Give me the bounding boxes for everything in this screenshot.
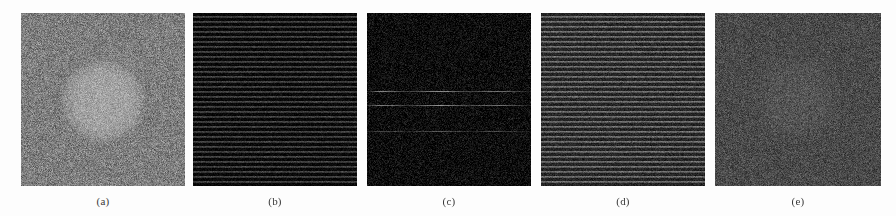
figure-panel-d: (d) <box>541 13 705 207</box>
panel-image-e <box>715 13 881 186</box>
panel-image-c <box>367 13 531 186</box>
panel-caption-d: (d) <box>616 196 629 207</box>
noise-texture-b <box>193 13 357 186</box>
panel-image-b <box>193 13 357 186</box>
panel-caption-b: (b) <box>268 196 281 207</box>
noise-texture-e <box>715 13 881 186</box>
figure-panel-e: (e) <box>715 13 881 207</box>
bright-streak-line <box>367 131 531 132</box>
figure-panel-c: (c) <box>367 13 531 207</box>
panel-caption-e: (e) <box>792 196 805 207</box>
bright-streak-line <box>367 91 531 93</box>
figure-panel-b: (b) <box>193 13 357 207</box>
panel-image-d <box>541 13 705 186</box>
noise-texture-d <box>541 13 705 186</box>
panel-image-a <box>21 13 185 186</box>
panel-caption-c: (c) <box>443 196 456 207</box>
circular-blob-e <box>715 13 881 186</box>
figure-panel-row: (a) (b) (c) (d) (e) <box>0 0 896 216</box>
bright-streak-line <box>367 105 531 106</box>
circular-blob-a <box>21 13 185 186</box>
horizontal-stripes-d <box>541 13 705 186</box>
horizontal-stripes-b <box>193 13 357 186</box>
noise-texture-a <box>21 13 185 186</box>
figure-panel-a: (a) <box>21 13 185 207</box>
noise-texture-c <box>367 13 531 186</box>
panel-caption-a: (a) <box>97 196 110 207</box>
bright-streaks-c <box>367 13 531 186</box>
